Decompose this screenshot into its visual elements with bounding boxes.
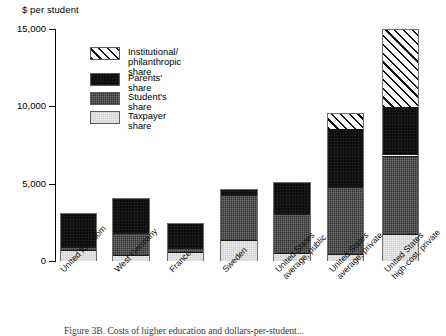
legend-swatch-parents: [90, 73, 120, 86]
segment-parents: [168, 224, 203, 249]
segment-parents: [328, 130, 363, 187]
legend-label-taxpayer: Taxpayer share: [128, 111, 166, 131]
segment-student: [221, 195, 257, 241]
legend-swatch-institutional: [90, 47, 120, 60]
figure-caption: Figure 3B. Costs of higher education and…: [64, 325, 444, 336]
segment-student: [383, 156, 418, 235]
legend-swatch-taxpayer: [90, 111, 120, 124]
segment-parents: [383, 108, 418, 156]
segment-parents: [113, 199, 149, 233]
segment-institutional: [328, 114, 363, 130]
legend-swatch-student: [90, 92, 120, 105]
segment-parents: [274, 183, 310, 214]
legend-item-taxpayer: Taxpayer share: [90, 111, 166, 131]
segment-institutional: [383, 30, 418, 108]
bar-united-states-high-cost-private: [382, 29, 419, 261]
